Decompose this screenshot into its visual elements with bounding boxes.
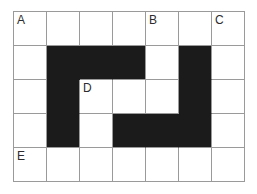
grid-cell	[179, 148, 212, 182]
grid-cell	[146, 114, 179, 148]
grid-cell	[47, 148, 80, 182]
grid-cell	[179, 114, 212, 148]
grid-cell	[80, 46, 113, 80]
grid-cell	[113, 80, 146, 114]
grid-cell	[47, 114, 80, 148]
cell-label-d: D	[83, 81, 92, 95]
grid-cell	[80, 114, 113, 148]
grid-cell	[212, 46, 245, 80]
grid-cell	[113, 46, 146, 80]
grid-cell: C	[212, 12, 245, 46]
grid-cell	[113, 114, 146, 148]
grid-cell	[47, 80, 80, 114]
grid-cell	[14, 114, 47, 148]
grid-cell	[113, 148, 146, 182]
grid-cell	[212, 114, 245, 148]
grid-cell	[14, 46, 47, 80]
grid-cell: A	[14, 12, 47, 46]
cell-label-e: E	[17, 149, 25, 163]
grid-cell	[179, 12, 212, 46]
grid-cell	[113, 12, 146, 46]
grid-cell	[80, 148, 113, 182]
grid-cell: E	[14, 148, 47, 182]
grid-cell	[47, 46, 80, 80]
cell-label-a: A	[17, 13, 25, 27]
grid-cell	[47, 12, 80, 46]
grid-cell	[212, 148, 245, 182]
grid-cell: D	[80, 80, 113, 114]
grid-cell	[14, 80, 47, 114]
grid-cell	[80, 12, 113, 46]
grid-cell	[179, 46, 212, 80]
grid-cell	[146, 46, 179, 80]
grid-cell	[212, 80, 245, 114]
grid-cell	[179, 80, 212, 114]
cell-label-c: C	[215, 13, 224, 27]
puzzle-grid: ABCDE	[13, 11, 245, 182]
grid-cell	[146, 148, 179, 182]
grid-cell: B	[146, 12, 179, 46]
cell-label-b: B	[149, 13, 157, 27]
grid-cell	[146, 80, 179, 114]
